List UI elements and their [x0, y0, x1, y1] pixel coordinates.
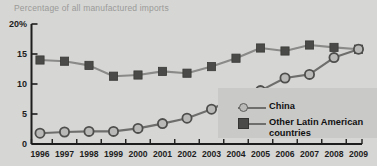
data-point-latam-2006	[281, 47, 289, 55]
data-point-latam-2000	[134, 71, 142, 79]
data-point-latam-2002	[183, 69, 191, 77]
data-point-china-1997	[60, 127, 69, 136]
data-point-latam-1996	[36, 56, 44, 64]
data-point-latam-2001	[158, 67, 166, 75]
data-point-latam-2004	[232, 54, 240, 62]
data-point-china-2009	[354, 45, 363, 54]
chart-container: Percentage of all manufactured imports 0…	[0, 0, 377, 166]
legend-label-china: China	[269, 101, 295, 112]
legend-square-marker-icon	[238, 117, 266, 130]
data-point-china-2007	[305, 70, 314, 79]
data-point-latam-1999	[109, 72, 117, 80]
data-point-china-2003	[207, 105, 216, 114]
chart-plot-area	[0, 0, 377, 166]
legend-item-other-latin-american-countries[interactable]: Other Latin American countries	[238, 117, 363, 139]
data-point-latam-2003	[207, 63, 215, 71]
data-point-china-1996	[35, 129, 44, 138]
data-point-china-2008	[329, 53, 338, 62]
data-point-china-2000	[133, 124, 142, 133]
legend-circle-marker-icon	[238, 101, 266, 114]
data-point-latam-2007	[305, 41, 313, 49]
chart-legend: China Other Latin American countries	[218, 88, 377, 138]
data-point-china-1998	[84, 127, 93, 136]
legend-label-other-latin-american-countries: Other Latin American countries	[269, 117, 363, 139]
data-point-latam-2008	[330, 43, 338, 51]
data-point-latam-2005	[256, 44, 264, 52]
data-point-latam-1997	[60, 57, 68, 65]
legend-item-china[interactable]: China	[238, 101, 295, 114]
data-point-china-2001	[158, 119, 167, 128]
data-point-china-2002	[182, 114, 191, 123]
data-point-latam-1998	[85, 61, 93, 69]
data-point-china-2006	[280, 73, 289, 82]
data-point-china-1999	[109, 127, 118, 136]
